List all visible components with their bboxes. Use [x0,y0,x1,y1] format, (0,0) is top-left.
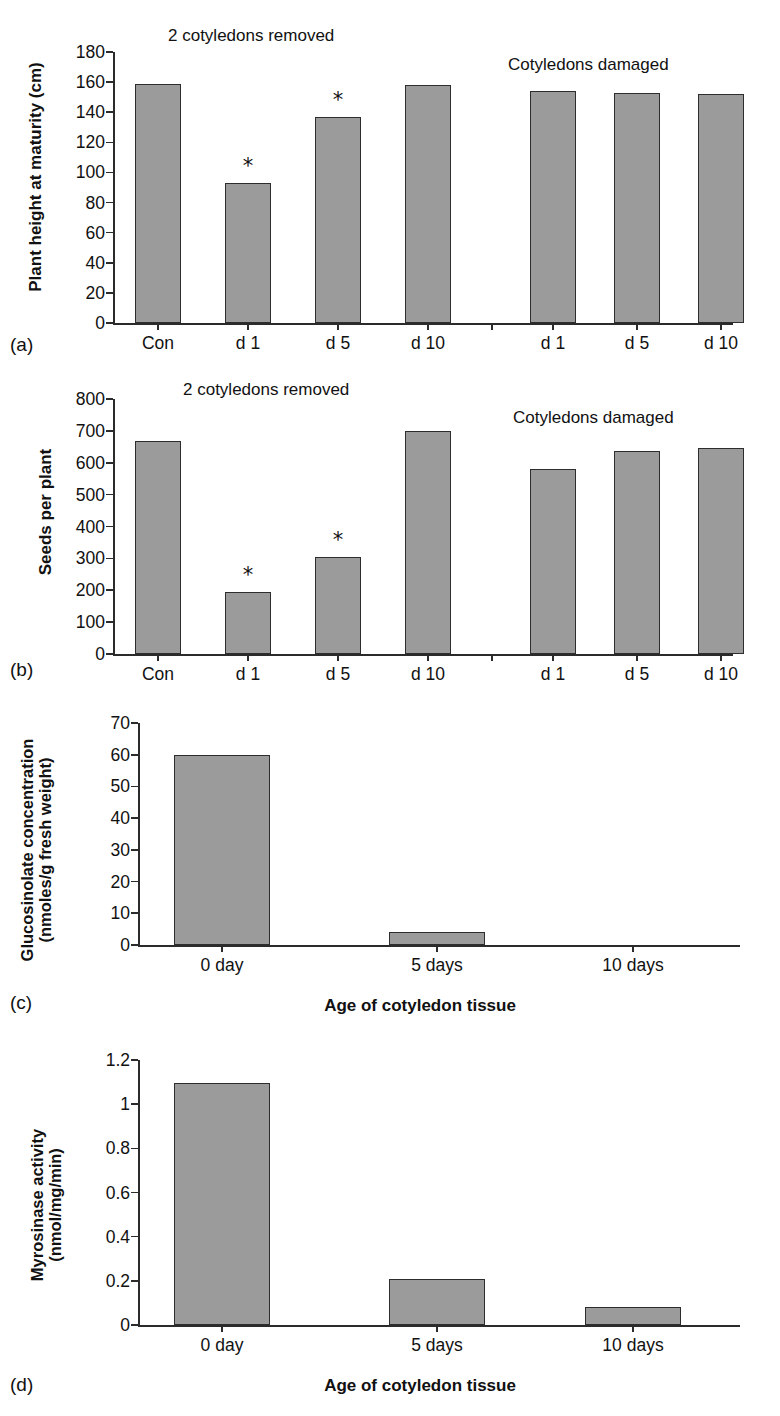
x-tick [632,945,634,952]
y-tick-label: 140 [47,102,105,123]
y-tick [106,81,113,83]
y-tick [106,262,113,264]
y-tick [106,142,113,144]
y-tick-label: 1.2 [72,1050,130,1071]
bar [315,117,361,323]
bar [405,431,451,654]
x-tick-label: d 10 [704,664,738,685]
bar [698,448,744,654]
y-tick [106,172,113,174]
x-tick [720,323,722,330]
y-tick [131,912,138,914]
bar [614,93,660,323]
x-tick [247,323,249,330]
x-tick [247,654,249,661]
x-axis-title-c: Age of cotyledon tissue [324,996,516,1016]
panel-letter-d: (d) [10,1374,33,1396]
bar [698,94,744,323]
y-tick [106,398,113,400]
x-tick [427,323,429,330]
x-tick-label: d 1 [541,664,565,685]
significance-star: * [243,565,254,586]
y-tick [106,621,113,623]
y-tick-label: 160 [47,72,105,93]
bar [585,1307,681,1325]
bar [135,441,181,654]
y-axis-title-c-line1: Glucosinolate concentration [18,720,36,980]
y-tick [131,1192,138,1194]
y-tick [106,430,113,432]
y-tick-label: 0.6 [72,1182,130,1203]
y-tick-label: 0.4 [72,1226,130,1247]
y-tick-label: 180 [47,42,105,63]
y-tick-label: 40 [47,252,105,273]
y-tick [106,558,113,560]
y-tick-label: 20 [72,871,130,892]
x-tick [720,654,722,661]
y-tick-label: 30 [72,839,130,860]
y-axis-title-d: Myrosinase activity (nmol/mg/min) [28,1080,65,1330]
y-tick [131,786,138,788]
y-tick-label: 100 [47,162,105,183]
x-tick [632,1325,634,1332]
x-tick [157,654,159,661]
y-tick-label: 300 [47,548,105,569]
y-tick [131,754,138,756]
panel-d: (d) Myrosinase activity (nmol/mg/min) Ag… [0,1034,780,1416]
x-tick [337,654,339,661]
y-tick-label: 50 [72,776,130,797]
y-tick [106,51,113,53]
bar [315,557,361,654]
bar [389,932,485,945]
group-title-b-removed: 2 cotyledons removed [183,380,349,400]
x-tick [636,323,638,330]
y-tick [106,462,113,464]
bar [174,755,270,945]
y-tick [106,322,113,324]
x-tick [491,654,493,661]
x-tick [552,323,554,330]
panel-letter-a: (a) [10,334,33,356]
x-tick-label: d 5 [326,664,350,685]
x-tick [436,1325,438,1332]
y-tick [131,1236,138,1238]
bar [225,183,271,323]
y-tick [131,1103,138,1105]
y-tick-label: 800 [47,389,105,410]
x-tick [427,654,429,661]
x-tick-label: 10 days [602,955,663,976]
bar [135,84,181,323]
y-tick [106,526,113,528]
y-tick-label: 20 [47,282,105,303]
bar [174,1083,270,1325]
y-tick-label: 70 [72,713,130,734]
panel-letter-c: (c) [10,992,32,1014]
x-tick-label: d 10 [411,664,445,685]
group-title-a-removed: 2 cotyledons removed [168,26,334,46]
x-axis-title-d: Age of cotyledon tissue [324,1376,516,1396]
panel-a: (a) Plant height at maturity (cm) 2 coty… [0,0,780,372]
bar [225,592,271,654]
y-tick [131,1280,138,1282]
x-tick-label: 5 days [411,955,463,976]
y-tick [131,881,138,883]
y-tick-label: 0.2 [72,1270,130,1291]
bar [614,451,660,654]
y-tick-label: 0 [47,313,105,334]
x-tick [221,1325,223,1332]
y-tick [131,849,138,851]
y-axis-title-c-line2: (nmoles/g fresh weight) [36,720,54,980]
y-tick-label: 120 [47,132,105,153]
y-tick [106,653,113,655]
y-tick-label: 0 [72,1315,130,1336]
bar [530,469,576,654]
group-title-a-damaged: Cotyledons damaged [508,55,669,75]
x-tick [491,323,493,330]
x-tick [552,654,554,661]
x-tick-label: d 10 [704,333,738,354]
y-tick-label: 400 [47,516,105,537]
x-tick-label: Con [142,664,174,685]
x-tick-label: d 1 [236,664,260,685]
bar [405,85,451,323]
y-tick [131,1324,138,1326]
